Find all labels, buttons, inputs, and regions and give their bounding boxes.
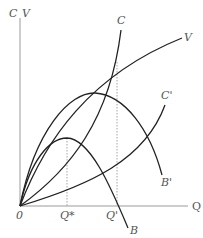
q-prime-label: Q' xyxy=(106,209,118,222)
c-prime-curve xyxy=(20,105,165,206)
c-prime-curve-label: C' xyxy=(161,89,172,102)
economics-diagram: C V Q 0 C V C' B' B Q* Q' xyxy=(0,0,203,238)
y-axis-label-v: V xyxy=(22,7,31,20)
y-axis-label-c: C xyxy=(9,7,18,20)
x-axis-label: Q xyxy=(192,200,201,213)
origin-label: 0 xyxy=(16,209,23,222)
c-curve-label: C xyxy=(117,14,126,27)
b-curve-label: B xyxy=(129,224,138,237)
q-star-label: Q* xyxy=(60,209,75,222)
v-curve-label: V xyxy=(184,31,193,44)
b-prime-curve-label: B' xyxy=(160,176,172,189)
